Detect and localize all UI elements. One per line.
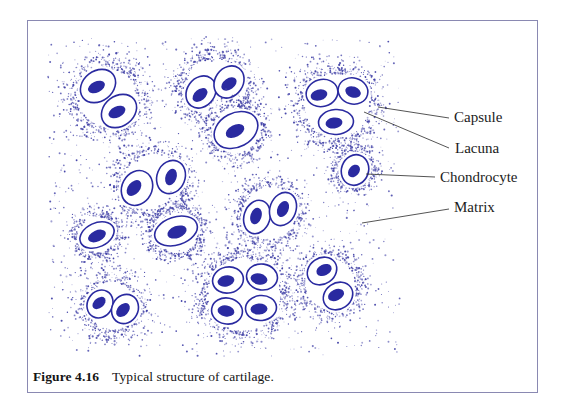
- cluster-trio-top-right: [284, 53, 391, 163]
- cluster-pair-bottom-right: [282, 240, 376, 329]
- leader-lines: [362, 107, 449, 223]
- label-lacuna: Lacuna: [455, 140, 499, 156]
- figure-caption: Figure 4.16Typical structure of cartilag…: [33, 369, 274, 385]
- leader-line: [362, 209, 449, 223]
- cluster-single-left-small: [66, 203, 129, 272]
- cluster-pair-bottom-left: [67, 258, 156, 351]
- figure-caption-text: Typical structure of cartilage.: [112, 369, 274, 384]
- cartilage-diagram: Capsule Lacuna Chondrocyte Matrix: [0, 0, 566, 408]
- label-matrix: Matrix: [454, 199, 495, 215]
- label-chondrocyte: Chondrocyte: [440, 169, 518, 185]
- cluster-pair-middle-right: [223, 157, 320, 258]
- cell-clusters: [49, 36, 394, 355]
- label-capsule: Capsule: [454, 109, 503, 125]
- figure-caption-number: Figure 4.16: [33, 369, 99, 384]
- leader-line: [378, 107, 449, 118]
- cluster-quad-bottom-middle: [182, 236, 303, 354]
- annotation-labels: Capsule Lacuna Chondrocyte Matrix: [440, 109, 518, 215]
- leader-line: [364, 112, 449, 148]
